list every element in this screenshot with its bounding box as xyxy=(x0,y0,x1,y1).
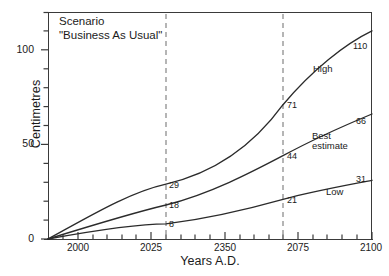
y-tick-label-100: 100 xyxy=(0,44,34,56)
x-tick-label-4: 2075 xyxy=(276,242,320,253)
x-axis-title: Years A.D. xyxy=(48,254,372,268)
sea-level-rise-chart: Centimetres 100 50 0 2000 2025 2350 2075… xyxy=(0,0,389,276)
value-label-low-2100: 31 xyxy=(356,174,366,184)
scenario-line-2: "Business As Usual" xyxy=(59,28,162,42)
value-label-best-2100: 66 xyxy=(356,116,366,126)
y-tick-label-50: 50 xyxy=(0,138,34,150)
value-label-best-2070: 44 xyxy=(287,151,297,161)
x-axis-ticks xyxy=(63,232,372,239)
value-label-high-2030: 29 xyxy=(169,180,179,190)
scenario-annotation: Scenario "Business As Usual" xyxy=(59,14,162,43)
series-label-best-estimate-line2: estimate xyxy=(312,140,348,151)
value-label-low-2070: 21 xyxy=(287,195,297,205)
series-line-low xyxy=(48,180,372,239)
value-label-best-2030: 18 xyxy=(169,200,179,210)
x-tick-label-1: 2000 xyxy=(56,242,100,253)
x-tick-label-5: 2100 xyxy=(349,242,389,253)
y-axis-title: Centimetres xyxy=(29,54,43,174)
x-tick-label-3: 2350 xyxy=(203,242,247,253)
value-label-low-2030: 8 xyxy=(169,219,174,229)
scenario-line-1: Scenario xyxy=(59,14,162,28)
value-label-high-2100: 110 xyxy=(353,41,367,51)
series-label-low: Low xyxy=(326,186,343,197)
x-tick-label-2: 2025 xyxy=(129,242,173,253)
series-label-high: High xyxy=(313,63,333,74)
y-tick-label-0: 0 xyxy=(0,233,34,245)
value-label-high-2070: 71 xyxy=(287,100,297,110)
